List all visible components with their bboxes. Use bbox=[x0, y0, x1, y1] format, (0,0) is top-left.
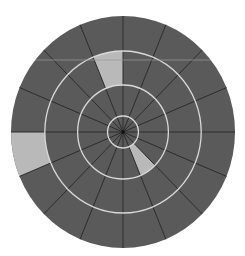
polar-grid-svg bbox=[0, 0, 245, 256]
polar-grid-diagram bbox=[0, 0, 245, 256]
center-point bbox=[121, 130, 125, 134]
